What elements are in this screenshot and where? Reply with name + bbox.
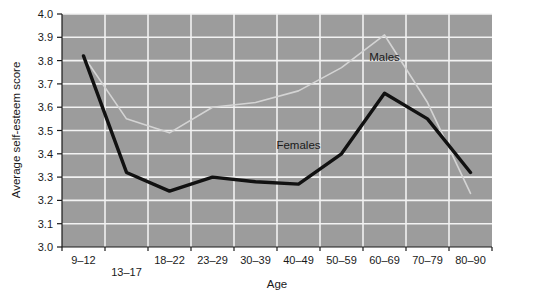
y-axis-ticks: 3.03.13.23.33.43.53.63.73.83.94.0 [38,8,62,253]
x-axis-title: Age [267,278,287,290]
x-tick-label: 50–59 [326,254,357,266]
x-tick-label: 40–49 [283,254,314,266]
x-axis-ticks [62,247,492,251]
series-label-females: Females [276,139,320,151]
x-tick-label: 23–29 [197,254,228,266]
y-tick-label: 3.8 [38,55,53,67]
y-tick-label: 3.2 [38,194,53,206]
x-tick-label: 30–39 [240,254,271,266]
series-label-males: Males [369,51,400,63]
x-tick-label: 60–69 [369,254,400,266]
y-tick-label: 3.4 [38,148,53,160]
y-tick-label: 4.0 [38,8,53,20]
x-tick-label: 18–22 [154,254,185,266]
x-axis-tick-labels: 9–1213–1718–2223–2930–3940–4950–5960–697… [71,254,486,278]
y-tick-label: 3.7 [38,78,53,90]
y-tick-label: 3.5 [38,125,53,137]
x-tick-label: 80–90 [455,254,486,266]
y-tick-label: 3.9 [38,31,53,43]
x-tick-label: 70–79 [412,254,443,266]
self-esteem-by-age-chart: 3.03.13.23.33.43.53.63.73.83.94.0 9–1213… [0,0,541,296]
chart-canvas: 3.03.13.23.33.43.53.63.73.83.94.0 9–1213… [0,0,541,296]
y-tick-label: 3.0 [38,241,53,253]
y-tick-label: 3.3 [38,171,53,183]
x-tick-label: 13–17 [111,266,142,278]
x-tick-label: 9–12 [71,254,95,266]
y-tick-label: 3.1 [38,218,53,230]
y-axis-title: Average self-esteem score [10,62,22,199]
y-tick-label: 3.6 [38,101,53,113]
